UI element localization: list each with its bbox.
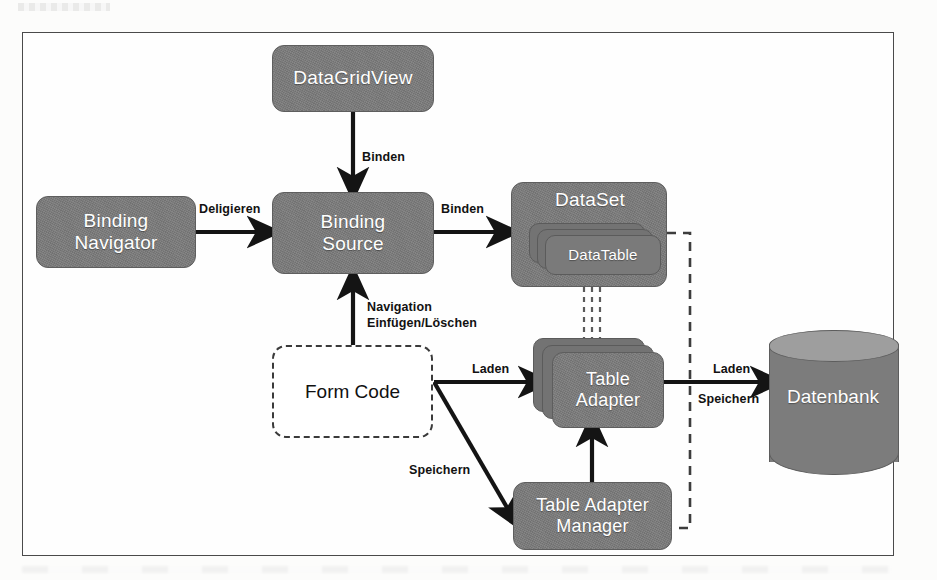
node-form-code[interactable]: Form Code — [272, 345, 433, 438]
edge-form-code-to-table-adapter-manager — [434, 382, 512, 516]
edge-label-deligieren: Deligieren — [199, 202, 260, 216]
node-table-adapter-manager-label-line2: Manager — [556, 516, 628, 536]
node-dataset[interactable]: DataSet DataTable — [511, 182, 667, 287]
node-table-adapter-manager-label-line1: Table Adapter — [536, 495, 649, 515]
edge-label-navigation: Navigation Einfügen/Löschen — [367, 300, 477, 331]
node-datagridview-label: DataGridView — [293, 67, 412, 89]
node-binding-navigator-label-line1: Binding — [84, 210, 149, 231]
database-cylinder-top — [769, 330, 899, 362]
node-datenbank-label: Datenbank — [769, 386, 897, 408]
node-form-code-label: Form Code — [305, 381, 400, 403]
edge-label-laden-datenbank: Laden — [713, 362, 750, 376]
scanned-page-canvas: DataGridView Binding Navigator Binding S… — [0, 0, 937, 580]
node-binding-source-label-line1: Binding — [321, 211, 386, 232]
node-table-adapter-front[interactable]: Table Adapter — [552, 352, 664, 428]
node-table-adapter[interactable]: Table Adapter — [533, 338, 664, 428]
edge-dataset-to-table-adapter-dashed — [584, 287, 600, 342]
node-table-adapter-label-line2: Adapter — [576, 390, 640, 410]
node-binding-source[interactable]: Binding Source — [272, 192, 434, 274]
connector-layer — [0, 0, 937, 580]
edge-label-laden-table-adapter: Laden — [472, 362, 509, 376]
node-table-adapter-manager[interactable]: Table Adapter Manager — [513, 482, 672, 550]
edge-label-navigation-line2: Einfügen/Löschen — [367, 316, 477, 332]
node-dataset-label: DataSet — [512, 189, 668, 211]
node-datagridview[interactable]: DataGridView — [272, 45, 434, 112]
node-datatable-label: DataTable — [568, 246, 637, 264]
node-binding-navigator-label-line2: Navigator — [74, 232, 157, 253]
edge-label-speichern-manager: Speichern — [409, 463, 470, 477]
node-table-adapter-label-line1: Table — [586, 369, 630, 389]
edge-label-binden-datagridview: Binden — [362, 150, 405, 164]
node-datenbank[interactable]: Datenbank — [769, 330, 897, 476]
edge-label-binden-dataset: Binden — [441, 202, 484, 216]
node-binding-source-label-line2: Source — [322, 233, 383, 254]
node-binding-navigator[interactable]: Binding Navigator — [36, 196, 196, 268]
edge-label-navigation-line1: Navigation — [367, 300, 477, 316]
edge-label-speichern-datenbank: Speichern — [698, 392, 759, 406]
node-datatable[interactable]: DataTable — [545, 235, 661, 275]
database-cylinder-bottom — [769, 434, 899, 475]
